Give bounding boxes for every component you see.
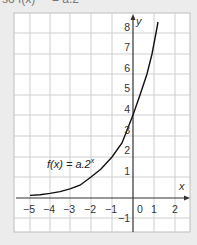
y-tick-1: 1	[124, 165, 130, 177]
y-tick-6: 6	[124, 62, 130, 74]
y-tick-2: 2	[124, 144, 130, 156]
x-tick-neg2: −2	[84, 203, 96, 215]
y-tick-5: 5	[124, 82, 130, 94]
x-tick-neg3: −3	[63, 203, 75, 215]
y-tick-7: 7	[124, 41, 130, 53]
x-tick-2: 2	[172, 203, 178, 215]
y-tick-8: 8	[124, 21, 130, 33]
function-label: f(x) = a.2x	[47, 157, 95, 170]
graph-paper	[14, 13, 190, 232]
x-tick-neg1: −1	[105, 203, 117, 215]
x-tick-neg5: −5	[23, 203, 35, 215]
x-tick-1: 1	[151, 203, 157, 215]
x-tick-neg4: −4	[43, 203, 55, 215]
y-tick-4: 4	[124, 103, 130, 115]
x-axis-label: x	[178, 180, 185, 192]
function-graph: −5 −4 −3 −2 −1 0 1 2 8 7 6 5 4 3 2 1 −1 …	[0, 0, 197, 245]
y-tick-3: 3	[124, 124, 130, 136]
y-tick-neg1: −1	[118, 212, 130, 224]
x-tick-0: 0	[137, 203, 143, 215]
